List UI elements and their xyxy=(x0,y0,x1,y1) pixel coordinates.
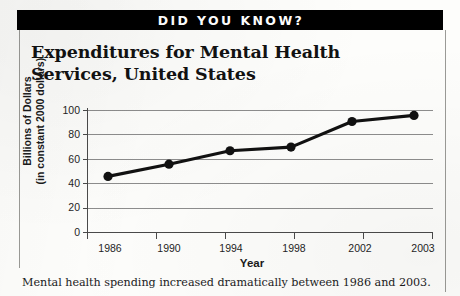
y-tick-label-0: 0 xyxy=(52,226,80,238)
data-point-1990 xyxy=(164,160,173,169)
x-tick-label-1998: 1998 xyxy=(271,242,317,254)
y-tick-label-80: 80 xyxy=(52,128,80,140)
figure-page: DID YOU KNOW? Expenditures for Mental He… xyxy=(0,0,460,296)
x-tick-label-1990: 1990 xyxy=(146,242,192,254)
data-line-series-0 xyxy=(108,115,414,176)
x-tick-label-1994: 1994 xyxy=(208,242,254,254)
y-tick-label-40: 40 xyxy=(52,177,80,189)
y-tick-label-60: 60 xyxy=(52,153,80,165)
x-tick-label-1986: 1986 xyxy=(87,242,133,254)
data-point-1998 xyxy=(286,143,295,152)
data-markers-series-0 xyxy=(103,111,418,181)
x-axis-title: Year xyxy=(87,257,417,269)
data-point-2003 xyxy=(409,111,418,120)
x-tick-label-2003: 2003 xyxy=(400,242,446,254)
x-axis-ticks xyxy=(88,232,433,239)
gridlines xyxy=(88,111,433,209)
y-tick-label-20: 20 xyxy=(52,201,80,213)
data-point-1994 xyxy=(225,146,234,155)
data-point-1986 xyxy=(103,172,112,181)
chart-figure: Billions of Dollars (in constant 2000 do… xyxy=(0,0,460,296)
y-tick-label-100: 100 xyxy=(52,104,80,116)
x-tick-label-2002: 2002 xyxy=(337,242,383,254)
data-point-2002 xyxy=(347,117,356,126)
figure-caption: Mental health spending increased dramati… xyxy=(22,276,442,289)
